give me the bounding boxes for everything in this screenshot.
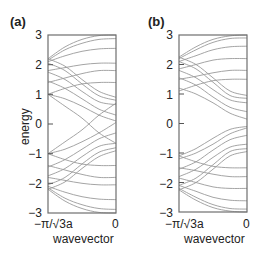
band-curve [48, 186, 116, 199]
band-curve [48, 48, 116, 61]
band-curve [179, 144, 247, 176]
band-curve [179, 185, 247, 200]
panel-b-band-curves [179, 35, 247, 212]
band-curve [179, 135, 247, 169]
band-curve [179, 70, 247, 102]
band-curve [179, 46, 247, 61]
band-structure-plot [0, 0, 261, 254]
band-curve [48, 82, 116, 94]
band-curve [179, 188, 247, 209]
band-curve [179, 78, 247, 112]
band-curve [179, 38, 247, 59]
band-curve [48, 188, 116, 210]
band-curve [48, 72, 116, 105]
panel-a-band-curves [48, 35, 116, 213]
band-curve [48, 39, 116, 61]
band-curve [179, 59, 247, 69]
band-curve [179, 149, 247, 186]
panel-a-frame [48, 35, 116, 213]
band-curve [179, 128, 247, 159]
band-curve [179, 88, 247, 119]
band-curve [48, 143, 116, 176]
band-curve [179, 62, 247, 99]
panel-b-y-ticks [179, 65, 184, 183]
band-curve [179, 178, 247, 188]
